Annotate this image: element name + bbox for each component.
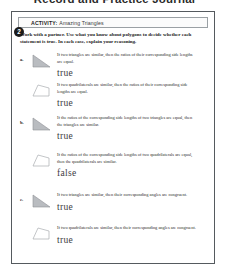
answer-text: true: [57, 131, 210, 141]
triangle-shape-icon: [30, 192, 54, 209]
activity-label: ACTIVITY:: [31, 20, 57, 26]
statement-text: If two triangles are similar, then the r…: [57, 52, 197, 65]
triangle-shape-icon: [30, 115, 54, 132]
activity-header-bar: ACTIVITY: Amazing Triangles: [18, 17, 208, 28]
statement-text: If two quadrilaterals are similar, then …: [57, 82, 197, 95]
list-item: b. If the ratios of the corresponding si…: [20, 115, 210, 141]
answer-text: false: [57, 168, 210, 178]
item-body: If two triangles are similar, then the r…: [54, 52, 210, 78]
item-letter-spacer: [20, 152, 30, 157]
item-letter-spacer: [20, 82, 30, 87]
activity-name: Amazing Triangles: [59, 20, 103, 26]
answer-text: true: [57, 235, 210, 245]
statement-text: If the ratios of the corresponding side …: [57, 152, 197, 165]
list-item: If two quadrilaterals are similar, then …: [20, 225, 210, 245]
quadrilateral-shape-icon: [30, 152, 54, 169]
item-body: If the ratios of the corresponding side …: [54, 152, 210, 178]
page-title: Record and Practice Journal: [0, 0, 229, 5]
item-body: If two quadrilaterals are similar, then …: [54, 225, 210, 245]
item-letter: a.: [20, 52, 30, 62]
statement-text: If two triangles are similar, then their…: [57, 192, 197, 199]
answer-text: true: [57, 98, 210, 108]
item-letter: c.: [20, 192, 30, 202]
answer-text: true: [57, 68, 210, 78]
list-item: a. If two triangles are similar, then th…: [20, 52, 210, 78]
list-item: If two quadrilaterals are similar, then …: [20, 82, 210, 108]
item-body: If two quadrilaterals are similar, then …: [54, 82, 210, 108]
directions-text: Work with a partner. Use what you know a…: [20, 31, 196, 46]
quadrilateral-shape-icon: [30, 225, 54, 242]
quadrilateral-shape-icon: [30, 82, 54, 99]
list-item: c. If two triangles are similar, then th…: [20, 192, 210, 212]
triangle-shape-icon: [30, 52, 54, 69]
journal-page: ACTIVITY: Amazing Triangles 2 Work with …: [11, 11, 215, 264]
item-letter-spacer: [20, 225, 30, 230]
item-body: If the ratios of the corresponding side …: [54, 115, 210, 141]
statement-text: If the ratios of the corresponding side …: [57, 115, 197, 128]
answer-text: true: [57, 202, 210, 212]
statement-text: If two quadrilaterals are similar, then …: [57, 225, 197, 232]
item-body: If two triangles are similar, then their…: [54, 192, 210, 212]
item-letter: b.: [20, 115, 30, 125]
list-item: If the ratios of the corresponding side …: [20, 152, 210, 178]
